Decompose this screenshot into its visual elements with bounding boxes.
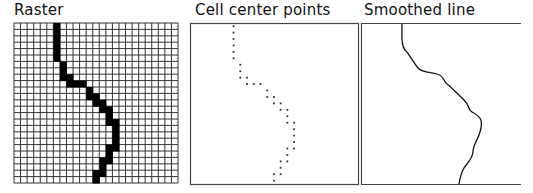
cell-center-point bbox=[246, 77, 248, 79]
raster-cell bbox=[106, 119, 113, 126]
cell-center-point bbox=[273, 180, 275, 182]
raster-cell bbox=[99, 100, 106, 107]
raster-cell bbox=[86, 93, 93, 100]
raster-cell bbox=[60, 68, 67, 75]
cell-center-point bbox=[233, 38, 235, 40]
raster-cell bbox=[53, 36, 60, 43]
raster-cell bbox=[99, 157, 106, 164]
raster-cell bbox=[99, 164, 106, 171]
raster-cell bbox=[93, 100, 100, 107]
cell-center-point bbox=[239, 70, 241, 72]
raster-cell bbox=[93, 177, 100, 184]
cell-center-point bbox=[233, 51, 235, 53]
raster-cell bbox=[99, 106, 106, 113]
cell-center-point bbox=[273, 103, 275, 105]
cell-center-point bbox=[280, 167, 282, 169]
raster-cell bbox=[53, 29, 60, 36]
cell-center-point bbox=[280, 173, 282, 175]
raster-cell bbox=[93, 170, 100, 177]
raster-cell bbox=[53, 42, 60, 49]
raster-cell bbox=[60, 74, 67, 81]
raster-cell bbox=[106, 106, 113, 113]
cell-center-point bbox=[280, 160, 282, 162]
cell-center-point bbox=[233, 32, 235, 34]
smoothed-line bbox=[402, 23, 482, 184]
raster-cell bbox=[86, 87, 93, 94]
cell-center-point bbox=[293, 128, 295, 130]
cell-center-point bbox=[239, 77, 241, 79]
cell-center-point bbox=[233, 25, 235, 27]
raster-cell bbox=[106, 157, 113, 164]
cell-center-point bbox=[280, 103, 282, 105]
raster-cell bbox=[106, 151, 113, 158]
cell-center-point bbox=[246, 83, 248, 85]
raster-cell bbox=[112, 132, 119, 139]
raster-cell bbox=[66, 81, 73, 88]
raster-cell bbox=[106, 145, 113, 152]
cell-center-point bbox=[286, 109, 288, 111]
raster-cell bbox=[112, 125, 119, 132]
cell-center-point bbox=[286, 122, 288, 124]
diagram-canvas bbox=[0, 0, 533, 193]
cell-center-points-panel bbox=[191, 24, 359, 185]
raster-cell bbox=[60, 61, 67, 68]
cell-center-point bbox=[280, 109, 282, 111]
raster-cell bbox=[66, 74, 73, 81]
cell-center-point bbox=[233, 57, 235, 59]
smoothed-line-panel bbox=[361, 23, 521, 185]
cell-center-point bbox=[293, 122, 295, 124]
raster-cell bbox=[112, 145, 119, 152]
cell-center-point bbox=[266, 90, 268, 92]
cell-center-point bbox=[253, 83, 255, 85]
cell-center-point bbox=[286, 154, 288, 156]
raster-cell bbox=[112, 138, 119, 145]
raster-cell bbox=[53, 23, 60, 30]
cell-center-point bbox=[273, 173, 275, 175]
cell-center-point bbox=[266, 96, 268, 98]
raster-cell bbox=[53, 49, 60, 56]
cell-center-point bbox=[286, 115, 288, 117]
raster-cell bbox=[53, 55, 60, 62]
cell-center-point bbox=[260, 83, 262, 85]
cell-center-point bbox=[273, 96, 275, 98]
raster-cell bbox=[106, 113, 113, 120]
raster-cell bbox=[80, 81, 87, 88]
cell-center-point bbox=[239, 64, 241, 66]
cell-center-point bbox=[293, 135, 295, 137]
raster-cell bbox=[112, 119, 119, 126]
raster-cell bbox=[73, 81, 80, 88]
raster-cell bbox=[99, 170, 106, 177]
cell-center-point bbox=[286, 148, 288, 150]
cell-center-point bbox=[293, 141, 295, 143]
cell-center-point bbox=[293, 148, 295, 150]
cell-center-point bbox=[233, 45, 235, 47]
raster-cell bbox=[93, 93, 100, 100]
cell-center-point bbox=[286, 160, 288, 162]
